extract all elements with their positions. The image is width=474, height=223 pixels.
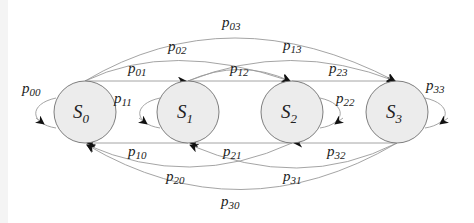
label-p23: p23 [328,60,348,78]
state-s3: S3 [366,81,428,143]
label-p13: p13 [282,37,302,55]
state-s1: S1 [157,81,219,143]
label-p12: p12 [229,60,249,78]
edge-p20 [87,143,292,167]
edge-p02 [85,61,290,82]
label-p00: p00 [21,80,41,98]
state-s0: S0 [54,81,116,143]
label-p02: p02 [167,38,187,56]
label-p31: p31 [282,168,302,186]
label-p03: p03 [221,14,241,32]
label-p33: p33 [425,77,445,95]
label-p10: p10 [127,143,147,161]
label-p11: p11 [113,90,132,108]
label-p22: p22 [335,90,355,108]
edge-p00 [36,98,56,128]
label-p30: p30 [220,193,240,211]
label-p20: p20 [165,168,185,186]
edge-p33 [425,98,448,128]
state-s2: S2 [261,81,323,143]
label-p32: p32 [326,143,346,161]
label-p21: p21 [222,143,242,161]
state-transition-diagram: S0 S1 S2 S3 p03 p02 p13 p01 p12 p23 p00 … [0,0,474,223]
